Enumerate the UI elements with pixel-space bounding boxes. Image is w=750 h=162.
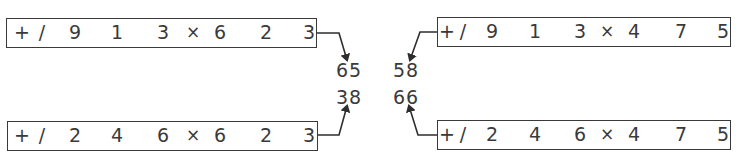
- right-vector-element: 6: [214, 126, 226, 145]
- left-vector-element: 2: [69, 126, 81, 145]
- right-vector-element: 7: [675, 22, 687, 41]
- right-vector-element: 2: [260, 126, 272, 145]
- left-vector-element: 6: [574, 125, 586, 144]
- times-operator: ×: [600, 23, 614, 40]
- times-operator: ×: [186, 24, 200, 41]
- expression-box-bottom-right: + / 2 4 6 × 4 7 5: [437, 120, 731, 150]
- result-38: 38: [336, 88, 362, 107]
- right-vector-element: 5: [717, 125, 729, 144]
- result-66: 66: [393, 88, 419, 107]
- left-vector-element: 2: [486, 125, 498, 144]
- left-vector-element: 4: [529, 125, 541, 144]
- left-vector-element: 4: [111, 126, 123, 145]
- expression-box-top-left: + / 9 1 3 × 6 2 3: [6, 18, 317, 48]
- right-vector-element: 3: [303, 126, 315, 145]
- right-vector-element: 2: [260, 23, 272, 42]
- times-operator: ×: [600, 126, 614, 143]
- arrow-top-left-to-65: [316, 33, 347, 60]
- result-58: 58: [393, 61, 419, 80]
- right-vector-element: 7: [675, 125, 687, 144]
- arrow-bottom-right-to-66: [409, 106, 437, 135]
- expression-box-bottom-left: + / 2 4 6 × 6 2 3: [7, 121, 318, 151]
- reduce-slash-operator: /: [39, 23, 45, 42]
- arrow-bottom-left-to-38: [317, 106, 347, 135]
- left-vector-element: 3: [157, 23, 169, 42]
- times-operator: ×: [186, 127, 200, 144]
- reduce-slash-operator: /: [39, 126, 45, 145]
- right-vector-element: 6: [214, 23, 226, 42]
- left-vector-element: 9: [69, 23, 81, 42]
- right-vector-element: 3: [303, 23, 315, 42]
- plus-operator: +: [14, 126, 30, 145]
- right-vector-element: 5: [717, 22, 729, 41]
- left-vector-element: 1: [529, 22, 541, 41]
- reduce-slash-operator: /: [460, 22, 466, 41]
- left-vector-element: 3: [574, 22, 586, 41]
- right-vector-element: 4: [628, 22, 640, 41]
- plus-operator: +: [14, 23, 30, 42]
- right-vector-element: 4: [628, 125, 640, 144]
- reduce-slash-operator: /: [460, 125, 466, 144]
- left-vector-element: 1: [111, 23, 123, 42]
- left-vector-element: 6: [157, 126, 169, 145]
- expression-box-top-right: + / 9 1 3 × 4 7 5: [437, 17, 731, 47]
- arrow-top-right-to-58: [410, 32, 437, 60]
- plus-operator: +: [439, 125, 455, 144]
- left-vector-element: 9: [486, 22, 498, 41]
- plus-operator: +: [439, 22, 455, 41]
- result-65: 65: [336, 61, 362, 80]
